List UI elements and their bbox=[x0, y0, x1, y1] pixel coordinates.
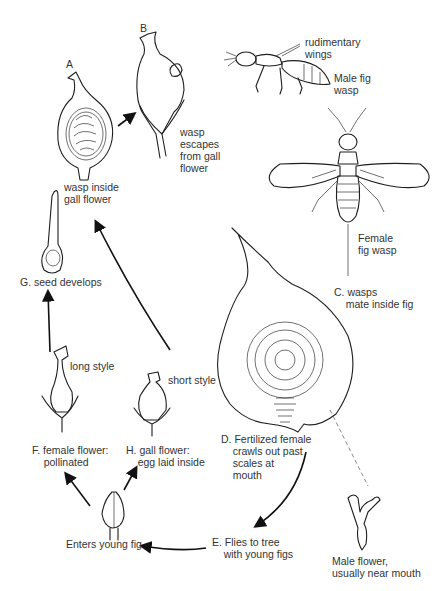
gall-flower-with-wasp-illustration bbox=[58, 72, 113, 180]
arrow-e-to-enter bbox=[142, 546, 206, 550]
leader-to-male-flower bbox=[330, 410, 368, 486]
caption-a: wasp inside gall flower bbox=[64, 181, 119, 205]
female-flower-illustration bbox=[42, 346, 78, 432]
arrow-h-to-a bbox=[96, 222, 170, 350]
caption-e: E. Flies to tree with young figs bbox=[212, 536, 293, 560]
arrow-a-to-b bbox=[118, 114, 134, 126]
male-flower-illustration bbox=[348, 495, 380, 550]
caption-g: G. seed develops bbox=[20, 276, 102, 288]
caption-short-style: short style bbox=[168, 374, 216, 386]
caption-female-wasp: Female fig wasp bbox=[358, 232, 397, 256]
fig-cross-section-illustration bbox=[218, 228, 353, 432]
caption-d: D. Fertilized female crawls out past sca… bbox=[221, 433, 311, 481]
caption-male-flower: Male flower, usually near mouth bbox=[332, 555, 421, 579]
arrow-to-h bbox=[124, 468, 136, 490]
caption-f: F. female flower: pollinated bbox=[32, 444, 108, 468]
young-fig-illustration bbox=[102, 492, 124, 540]
caption-long-style: long style bbox=[70, 360, 114, 372]
caption-male-wasp: Male fig wasp bbox=[334, 72, 371, 96]
caption-b: wasp escapes from gall flower bbox=[180, 126, 220, 174]
caption-h: H. gall flower: egg laid inside bbox=[126, 444, 205, 468]
arrow-to-f bbox=[66, 474, 90, 506]
label-a: A bbox=[66, 58, 73, 70]
caption-enters-young-fig: Enters young fig bbox=[66, 538, 142, 550]
escaped-gall-flower-illustration bbox=[137, 32, 184, 158]
caption-c: C. wasps mate inside fig bbox=[334, 286, 413, 310]
caption-rudimentary-wings: rudimentary wings bbox=[305, 36, 360, 60]
female-fig-wasp-illustration bbox=[269, 108, 429, 276]
gall-flower-egg-illustration bbox=[134, 372, 170, 436]
arrow-f-to-g bbox=[48, 292, 50, 352]
label-b: B bbox=[140, 22, 147, 34]
seed-develops-illustration bbox=[42, 191, 63, 273]
